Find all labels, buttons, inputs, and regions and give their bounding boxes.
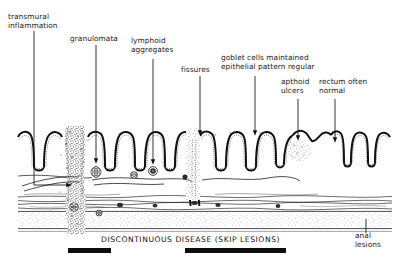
- lymphoid-aggregate-1: [149, 167, 158, 176]
- granuloma-4: [96, 210, 102, 216]
- crohns-disease-figure: transmural inflammation granulomata lymp…: [0, 0, 409, 263]
- label-lymphoid-aggregates: lymphoid aggregates: [131, 36, 173, 54]
- label-rectum-often-normal: rectum often normal: [319, 77, 367, 95]
- label-fissures: fissures: [181, 65, 210, 74]
- skip-lesion-bar-right: [185, 248, 286, 253]
- lymphoid-aggregate-5: [276, 204, 281, 208]
- lymphoid-aggregate-2: [183, 175, 188, 180]
- label-transmural-inflammation: transmural inflammation: [8, 12, 58, 30]
- granuloma-2: [131, 172, 138, 179]
- lymphoid-aggregate-3: [117, 203, 123, 207]
- fissure-cleft: [186, 128, 200, 206]
- apthoid-ulcer-patch: [287, 139, 311, 161]
- granuloma-3: [70, 203, 78, 211]
- label-granulomata: granulomata: [70, 34, 118, 43]
- illustration-canvas: [0, 0, 409, 263]
- label-goblet-cells: goblet cells maintained epithelial patte…: [221, 53, 315, 71]
- lymphoid-aggregate-4: [215, 203, 220, 207]
- lymphoid-aggregate-6: [153, 204, 158, 208]
- skip-lesion-bar-left: [68, 248, 111, 253]
- caption-discontinuous-disease: DISCONTINUOUS DISEASE (SKIP LESIONS): [101, 235, 280, 244]
- label-apthoid-ulcers: apthoid ulcers: [281, 77, 309, 95]
- label-anal-lesions: anal lesions: [355, 231, 381, 249]
